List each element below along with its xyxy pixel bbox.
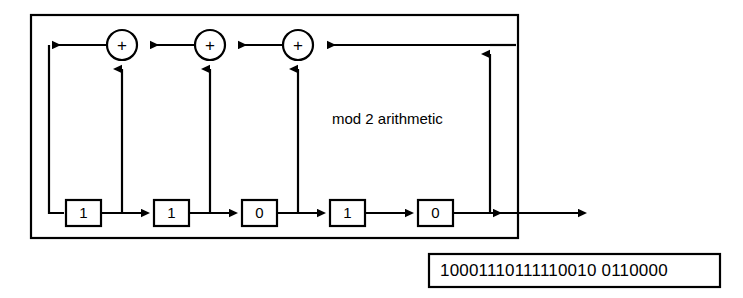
register-stage-1-value: 1 <box>79 204 87 221</box>
xor-adder-2: + <box>195 30 225 60</box>
register-stage-4: 1 <box>330 200 365 226</box>
register-stage-5-value: 0 <box>431 204 439 221</box>
output-bit-sequence-text: 10001110111110010 0110000 <box>440 261 668 280</box>
xor-adder-1-symbol: + <box>117 36 127 55</box>
register-stage-3-value: 0 <box>255 204 263 221</box>
register-stage-5: 0 <box>418 200 453 226</box>
output-bit-sequence-box: 10001110111110010 0110000 <box>429 254 720 287</box>
register-stage-4-value: 1 <box>343 204 351 221</box>
register-stage-2: 1 <box>154 200 189 226</box>
register-stage-3: 0 <box>242 200 277 226</box>
feedback-return-wire-left <box>49 45 64 213</box>
lfsr-diagram: + + + 1 1 0 <box>0 0 743 298</box>
register-stage-2-value: 1 <box>167 204 175 221</box>
lfsr-schematic-svg: + + + 1 1 0 <box>0 0 743 298</box>
register-stage-1: 1 <box>66 200 101 226</box>
xor-adder-3-symbol: + <box>293 36 303 55</box>
xor-adder-2-symbol: + <box>205 36 215 55</box>
xor-adder-3: + <box>283 30 313 60</box>
mod-2-arithmetic-label: mod 2 arithmetic <box>332 110 443 127</box>
xor-adder-1: + <box>107 30 137 60</box>
